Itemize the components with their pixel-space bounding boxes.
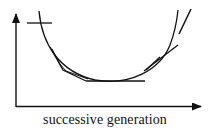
u-curve bbox=[39, 10, 178, 81]
x-axis-label: successive generation bbox=[0, 112, 210, 128]
left-chord-segments-inner bbox=[52, 49, 88, 79]
upper-right-tangent-line bbox=[179, 9, 191, 34]
